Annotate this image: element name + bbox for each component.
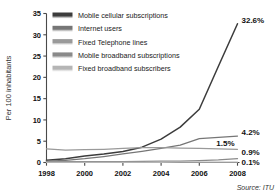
legend-label: Internet users (78, 24, 122, 33)
y-tick-label: 20 (33, 73, 41, 82)
chart-container: 05101520253035 199820002002200420062008 … (0, 0, 279, 196)
y-tick-label: 30 (33, 31, 41, 40)
y-tick-label: 5 (37, 137, 41, 146)
legend-swatch (53, 39, 73, 45)
x-tick-label: 2006 (191, 169, 208, 178)
y-tick-label: 0 (37, 158, 41, 167)
end-value-label: 32.6% (242, 16, 265, 25)
legend-swatch (53, 13, 73, 19)
legend-label: Mobile broadband subscriptions (78, 51, 180, 60)
x-tick-label: 2004 (153, 169, 171, 178)
legend-swatch (53, 26, 73, 32)
legend-label: Fixed Telephone lines (78, 38, 148, 47)
x-tick-label: 2008 (229, 169, 246, 178)
y-axis-title: Per 100 inhabitants (4, 55, 13, 120)
x-tick-label: 2002 (115, 169, 132, 178)
line-chart: 05101520253035 199820002002200420062008 … (0, 0, 279, 196)
end-value-label: 0.1% (242, 158, 260, 167)
x-tick-label: 2000 (76, 169, 93, 178)
chart-background (0, 0, 279, 196)
y-tick-label: 10 (33, 116, 41, 125)
y-tick-label: 15 (33, 94, 41, 103)
y-tick-label: 35 (33, 9, 41, 18)
end-value-label: 4.2% (242, 128, 260, 137)
legend-swatch (53, 66, 73, 72)
y-tick-label: 25 (33, 52, 41, 61)
source-note: Source: ITU (237, 184, 275, 191)
legend-swatch (53, 52, 73, 58)
end-value-label: 0.9% (242, 148, 260, 157)
legend-label: Fixed broadband subscribers (78, 64, 171, 73)
legend-label: Mobile cellular subscriptions (78, 11, 168, 20)
end-value-label: 1.5% (216, 139, 234, 148)
x-tick-label: 1998 (38, 169, 55, 178)
